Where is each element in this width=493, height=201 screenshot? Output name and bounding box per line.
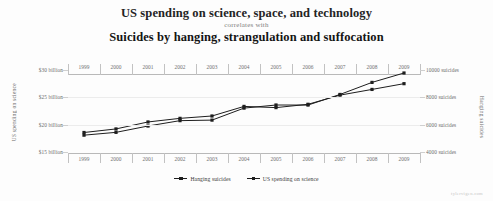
x-axis-bottom-line (68, 153, 420, 154)
data-point-marker (114, 131, 117, 134)
chart-title-primary: US spending on science, space, and techn… (0, 6, 493, 20)
x-axis-tick (260, 153, 261, 163)
x-axis-tick (228, 153, 229, 163)
data-point-marker (114, 127, 117, 130)
x-axis-tick (292, 153, 293, 163)
gridline (68, 125, 420, 126)
data-point-marker (370, 88, 373, 91)
data-point-marker (242, 105, 245, 108)
x-axis-tick (164, 153, 165, 163)
data-point-marker (146, 120, 149, 123)
y-axis-left-title-text: US spending on science (11, 83, 17, 141)
x-axis-tick (356, 153, 357, 163)
y-axis-left-tick (63, 97, 68, 98)
legend-label: Hanging suicides (190, 176, 230, 182)
y-axis-right-label: 10000 suicides (426, 67, 459, 73)
x-axis-label: 2009 (398, 156, 409, 162)
x-axis-tick (100, 153, 101, 163)
legend-item[interactable]: Hanging suicides (174, 175, 230, 182)
data-point-marker (178, 117, 181, 120)
data-point-marker (306, 103, 309, 106)
series-us-spending-on-science (82, 71, 405, 136)
legend-marker-icon (174, 175, 187, 182)
x-axis-label: 2000 (110, 156, 121, 162)
y-axis-left-title: US spending on science (9, 76, 19, 148)
data-point-marker (338, 94, 341, 97)
y-axis-left-label: $25 billion (39, 94, 63, 100)
plot-area: $15 billion$20 billion$25 billion$30 bil… (68, 70, 420, 152)
data-point-marker (274, 106, 277, 109)
x-axis-tick (132, 153, 133, 163)
x-axis-label: 2008 (366, 156, 377, 162)
y-axis-left-label: $20 billion (39, 122, 63, 128)
legend-label: US spending on science (263, 176, 319, 182)
chart-title-connector: correlates with (0, 20, 493, 30)
y-axis-right-tick (420, 70, 425, 71)
x-axis-bottom: 1999200020012002200320042005200620072008… (68, 153, 420, 164)
gridline (68, 97, 420, 98)
data-point-marker (210, 114, 213, 117)
data-point-marker (370, 81, 373, 84)
x-axis-label: 2003 (206, 156, 217, 162)
y-axis-left-label: $30 billion (39, 67, 63, 73)
y-axis-right-label: 4000 suicides (426, 149, 456, 155)
x-axis-tick (420, 153, 421, 163)
x-axis-label: 2001 (142, 156, 153, 162)
x-axis-label: 2005 (270, 156, 281, 162)
watermark: tylervigen.com (451, 191, 483, 196)
x-axis-tick (196, 153, 197, 163)
x-axis-label: 1999 (78, 156, 89, 162)
legend-marker-icon (247, 175, 260, 182)
data-point-marker (210, 119, 213, 122)
data-point-marker (402, 82, 405, 85)
y-axis-left-tick (63, 70, 68, 71)
x-axis-label: 2006 (302, 156, 313, 162)
x-axis-tick (388, 153, 389, 163)
y-axis-right-tick (420, 97, 425, 98)
chart-title-secondary: Suicides by hanging, strangulation and s… (0, 30, 493, 45)
series-lines (68, 70, 420, 152)
legend-item[interactable]: US spending on science (247, 175, 319, 182)
y-axis-right-title-text: Hanging suicides (479, 96, 485, 138)
chart-container: US spending on science, space, and techn… (0, 0, 493, 201)
x-axis-tick (324, 153, 325, 163)
chart-titles: US spending on science, space, and techn… (0, 6, 493, 45)
chart-legend: Hanging suicidesUS spending on science (0, 175, 493, 182)
x-axis-label: 2007 (334, 156, 345, 162)
data-point-marker (82, 131, 85, 134)
data-point-marker (402, 71, 405, 74)
x-axis-label: 2004 (238, 156, 249, 162)
y-axis-right-title: Hanging suicides (477, 86, 487, 148)
y-axis-right-label: 6000 suicides (426, 122, 456, 128)
y-axis-left-label: $15 billion (39, 149, 63, 155)
x-axis-label: 2002 (174, 156, 185, 162)
x-axis-tick (68, 153, 69, 163)
y-axis-right-label: 8000 suicides (426, 94, 456, 100)
y-axis-right-tick (420, 125, 425, 126)
y-axis-left-tick (63, 125, 68, 126)
